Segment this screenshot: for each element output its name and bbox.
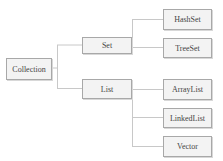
node-hashset: HashSet <box>163 9 212 30</box>
node-label: HashSet <box>174 15 201 24</box>
node-collection: Collection <box>6 58 52 80</box>
node-linkedlist: LinkedList <box>163 108 212 128</box>
node-arraylist: ArrayList <box>163 79 212 100</box>
node-treeset: TreeSet <box>163 38 212 58</box>
node-label: TreeSet <box>175 44 200 53</box>
node-label: Collection <box>12 65 45 74</box>
node-vector: Vector <box>163 136 212 157</box>
node-set: Set <box>82 37 132 54</box>
node-list: List <box>82 79 132 99</box>
node-label: ArrayList <box>172 85 203 94</box>
node-label: LinkedList <box>170 114 205 123</box>
node-label: Vector <box>177 142 198 151</box>
node-label: List <box>101 85 113 94</box>
node-label: Set <box>102 41 112 50</box>
